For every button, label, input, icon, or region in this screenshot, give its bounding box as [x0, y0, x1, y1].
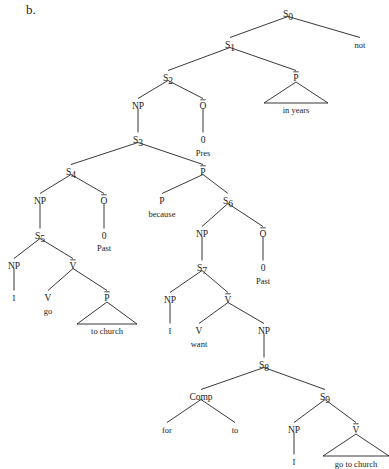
tree-branch-S1-to-S2: [168, 48, 230, 71]
tree-branch-S0-to-not: [288, 17, 360, 38]
tree-node-NP8: NP: [258, 326, 270, 336]
node-label-zero2: 0: [201, 135, 206, 145]
node-label-V_go: V: [45, 293, 52, 303]
leaf-label-go: go: [44, 306, 53, 316]
node-subscript-S0: 0: [288, 12, 293, 22]
leaf-label-Past6: Past: [256, 276, 271, 286]
tree-branch-Vbar5-to-Pbar_ch: [73, 269, 107, 291]
tree-node-S0: S0: [283, 9, 293, 21]
tree-node-O6: O: [260, 228, 267, 239]
tree-node-Past4: Past: [97, 243, 112, 253]
tree-node-P_bec: P: [159, 196, 164, 206]
tree-canvas: S0notS1S2Pin yearsNPO0PresS3S4PNPO0PastP…: [0, 0, 389, 469]
tree-node-to_church: to church: [91, 326, 124, 336]
tree-branch-S8-to-Comp: [201, 368, 264, 390]
tree-branch-Vbar7-to-NP8: [228, 303, 264, 324]
leaf-label-for: for: [162, 425, 172, 435]
tree-branch-S0-to-S1: [230, 17, 288, 38]
node-subscript-S2: 2: [168, 76, 173, 86]
node-label-S7: S7: [197, 263, 207, 275]
leaf-label-to_church: to church: [91, 326, 124, 336]
phrase-triangle-Pbar_yr: [264, 82, 328, 103]
tree-node-I7: I: [169, 326, 172, 336]
tree-node-in_years: in years: [283, 105, 310, 115]
tree-node-S9: S9: [320, 392, 330, 404]
tree-node-NP6: NP: [196, 229, 208, 239]
tree-branch-S4-to-NP4: [40, 175, 71, 194]
node-subscript-S7: 7: [202, 266, 207, 276]
tree-branch-Vbar5-to-V_go: [48, 269, 73, 291]
tree-node-V_go: V: [45, 293, 52, 303]
node-subscript-S6: 6: [228, 199, 233, 209]
node-label-S3: S3: [133, 135, 143, 147]
tree-branch-Comp-to-to: [201, 400, 235, 423]
tree-node-S8: S8: [259, 360, 269, 372]
tree-branch-Vbar7-to-V_want: [199, 303, 228, 324]
tree-node-S1: S1: [225, 40, 235, 52]
node-label-NP8: NP: [258, 326, 270, 336]
node-label-NP2: NP: [132, 101, 144, 111]
leaf-label-to: to: [232, 425, 239, 435]
tree-node-NP2: NP: [132, 101, 144, 111]
tree-branch-S7-to-NP7: [170, 271, 202, 293]
tree-node-NP5: NP: [8, 261, 20, 271]
tree-node-S4: S4: [66, 167, 76, 179]
tree-node-Comp: Comp: [189, 392, 212, 402]
node-label-O6: O: [260, 229, 267, 239]
node-label-NP6: NP: [196, 229, 208, 239]
tree-node-NP9: NP: [288, 425, 300, 435]
tree-node-zero2: 0: [201, 135, 206, 145]
tree-branch-Pbar_bc-to-S6: [203, 175, 228, 194]
node-subscript-S5: 5: [40, 234, 45, 244]
tree-branch-S1-to-Pbar_yr: [230, 48, 296, 71]
tree-nodes: S0notS1S2Pin yearsNPO0PresS3S4PNPO0PastP…: [8, 9, 378, 469]
node-subscript-S9: 9: [325, 395, 330, 405]
tree-node-Vbar9: V: [353, 424, 360, 435]
tree-node-Pbar_yr: P: [293, 72, 298, 83]
tree-node-zero6: 0: [261, 263, 266, 273]
tree-node-for: for: [162, 425, 172, 435]
node-label-Vbar7: V: [225, 295, 232, 305]
tree-node-I5: I: [13, 293, 16, 303]
node-label-S9: S9: [320, 392, 330, 404]
tree-node-because: because: [149, 209, 176, 219]
tree-branch-S3-to-Pbar_bc: [138, 143, 203, 165]
leaf-label-Past4: Past: [97, 243, 112, 253]
node-label-Vbar9: V: [353, 425, 360, 435]
node-label-NP4: NP: [34, 196, 46, 206]
tree-branch-S3-to-S4: [71, 143, 138, 165]
node-label-O4: O: [101, 196, 108, 206]
node-label-P_bec: P: [159, 196, 164, 206]
phrase-triangle-Vbar9: [323, 434, 389, 456]
node-label-Vbar5: V: [70, 261, 77, 271]
node-subscript-S4: 4: [71, 170, 76, 180]
node-label-NP7: NP: [164, 295, 176, 305]
tree-branch-Comp-to-for: [167, 400, 201, 423]
node-label-Pbar_yr: P: [293, 73, 298, 83]
tree-branch-S2-to-O2: [168, 81, 203, 99]
tree-node-O2: O: [200, 100, 207, 111]
leaf-label-not: not: [355, 40, 367, 50]
tree-node-Vbar7: V: [225, 294, 232, 305]
node-label-S0: S0: [283, 9, 293, 21]
tree-node-Pbar_bc: P: [200, 166, 205, 177]
leaf-label-in_years: in years: [283, 105, 310, 115]
node-label-NP5: NP: [8, 261, 20, 271]
tree-node-S3: S3: [133, 135, 143, 147]
tree-node-zero4: 0: [102, 231, 107, 241]
tree-branch-S9-to-NP9: [294, 400, 325, 423]
leaf-label-go_to_church: go to church: [335, 459, 378, 469]
figure-label: b.: [26, 2, 36, 18]
tree-node-want: want: [191, 339, 208, 349]
tree-branch-S8-to-S9: [264, 368, 325, 390]
node-subscript-S3: 3: [138, 138, 143, 148]
node-subscript-S8: 8: [264, 363, 269, 373]
tree-node-to: to: [232, 425, 239, 435]
tree-branch-S6-to-NP6: [202, 204, 228, 227]
node-label-S2: S2: [163, 73, 173, 85]
leaf-label-I7: I: [169, 326, 172, 336]
leaf-label-I5: I: [13, 293, 16, 303]
leaf-label-Pres: Pres: [196, 148, 211, 158]
leaf-label-because: because: [149, 209, 176, 219]
syntactic-tree-figure: b. S0notS1S2Pin yearsNPO0PresS3S4PNPO0Pa…: [0, 0, 389, 469]
